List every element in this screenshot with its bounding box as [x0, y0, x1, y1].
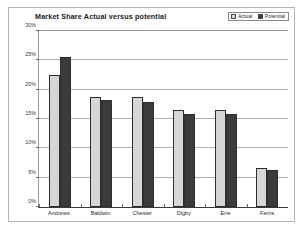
x-tick-label: Chester — [121, 210, 163, 216]
bar-digby-actual[interactable] — [173, 110, 184, 207]
bar-group — [205, 31, 247, 207]
bar-digby-potential[interactable] — [184, 114, 195, 207]
chart-frame: Market Share Actual versus potential Act… — [8, 7, 295, 222]
bar-group — [39, 31, 81, 207]
bar-chester-potential[interactable] — [143, 102, 154, 207]
bar-baldwin-potential[interactable] — [101, 100, 112, 207]
chart-legend: ActualPotential — [228, 12, 289, 21]
bar-chester-actual[interactable] — [132, 97, 143, 207]
plot-area: 0%5%10%15%20%25%30% — [38, 31, 288, 208]
x-tick-mark — [247, 204, 248, 207]
x-tick-label: Ferris — [246, 210, 288, 216]
y-tick-label: 15% — [25, 110, 36, 116]
y-tick-label: 30% — [25, 22, 36, 28]
bar-ferris-actual[interactable] — [256, 168, 267, 207]
x-axis-labels: AndrewsBaldwinChesterDigbyErieFerris — [38, 210, 288, 216]
bar-andrews-actual[interactable] — [49, 75, 60, 207]
legend-label: Actual — [238, 14, 252, 19]
x-tick-label: Erie — [205, 210, 247, 216]
x-tick-label: Andrews — [38, 210, 80, 216]
bar-erie-actual[interactable] — [215, 110, 226, 207]
legend-label: Potential — [265, 14, 285, 19]
y-tick-label: 10% — [25, 139, 36, 145]
legend-swatch-icon — [231, 14, 236, 19]
y-tick-label: 5% — [28, 169, 36, 175]
x-tick-label: Digby — [163, 210, 205, 216]
bar-andrews-potential[interactable] — [60, 57, 71, 207]
y-tick-label: 20% — [25, 81, 36, 87]
bars-layer — [39, 31, 288, 207]
x-tick-mark — [81, 204, 82, 207]
x-tick-label: Baldwin — [80, 210, 122, 216]
bar-group — [164, 31, 206, 207]
bar-group — [122, 31, 164, 207]
x-tick-mark — [205, 204, 206, 207]
legend-entry-potential: Potential — [258, 14, 285, 19]
bar-group — [247, 31, 289, 207]
bar-baldwin-actual[interactable] — [90, 97, 101, 207]
x-tick-mark — [39, 204, 40, 207]
bar-erie-potential[interactable] — [226, 114, 237, 207]
legend-entry-actual: Actual — [231, 14, 252, 19]
x-tick-mark — [164, 204, 165, 207]
bar-group — [81, 31, 123, 207]
legend-swatch-icon — [258, 14, 263, 19]
chart-title: Market Share Actual versus potential — [35, 12, 166, 21]
bar-ferris-potential[interactable] — [267, 170, 278, 207]
y-tick-label: 25% — [25, 51, 36, 57]
x-tick-mark — [122, 204, 123, 207]
y-tick-label: 0% — [28, 198, 36, 204]
